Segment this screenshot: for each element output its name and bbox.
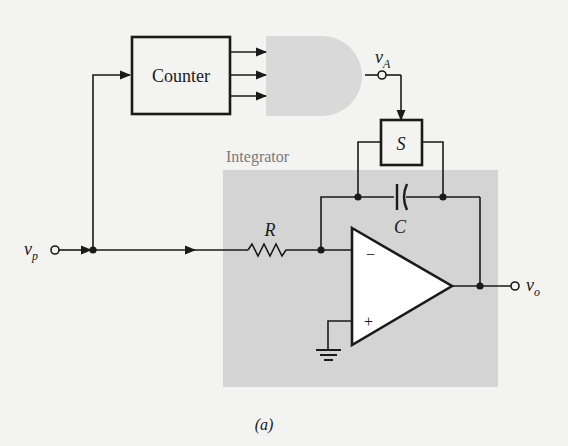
capacitor-label: C	[394, 217, 407, 237]
vp-label: vp	[24, 239, 38, 263]
counter-label: Counter	[152, 66, 210, 86]
gate-output-node: vA	[365, 47, 401, 120]
vp-terminal	[51, 246, 59, 254]
noninverting-input-symbol: +	[364, 313, 373, 330]
va-label: vA	[375, 47, 391, 71]
figure-caption: (a)	[255, 416, 274, 434]
vo-terminal	[511, 282, 519, 290]
integrator-label: Integrator	[226, 148, 290, 166]
input-line: vp	[24, 75, 248, 263]
va-terminal	[378, 71, 386, 79]
counter-block: Counter	[132, 37, 230, 114]
vo-label: vo	[526, 275, 540, 299]
circuit-diagram: Integrator Counter vA S C	[0, 0, 568, 446]
inverting-input-symbol: −	[366, 246, 375, 263]
switch-label: S	[397, 134, 406, 154]
resistor-label: R	[264, 220, 276, 240]
gate-shape	[266, 36, 362, 116]
counter-output-lines	[230, 52, 266, 96]
